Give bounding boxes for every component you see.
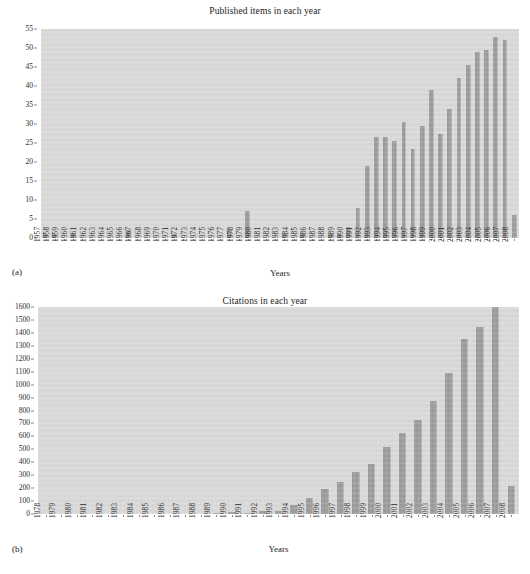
- y-axis-tick-label: 1600: [15, 303, 30, 311]
- bar: [430, 401, 437, 514]
- x-axis-tick-label: 1976: [209, 227, 216, 242]
- x-axis-tick: 1971: [170, 239, 179, 269]
- x-axis-tick-label: 1992: [356, 227, 363, 242]
- bar-slot: [162, 307, 178, 514]
- x-axis-tick: 1998: [418, 239, 427, 269]
- x-axis-tick: 1979: [243, 239, 252, 269]
- x-axis-tick: 2008: [510, 239, 519, 269]
- x-axis-tick-mark: [92, 515, 93, 517]
- bar-slot: [85, 307, 101, 514]
- y-axis-tick-label: 1200: [15, 355, 30, 363]
- chart-a-plot-area: [41, 29, 519, 238]
- bar-slot: [206, 29, 215, 238]
- x-axis-tick-label: 1965: [108, 227, 115, 242]
- x-axis-tick-mark: [278, 515, 279, 517]
- bar: [306, 498, 313, 514]
- bar-slot: [472, 307, 488, 514]
- bar-slot: [255, 307, 271, 514]
- x-axis-tick-mark: [310, 515, 311, 517]
- bar: [445, 373, 452, 514]
- y-axis-tick-mark: [34, 219, 37, 220]
- x-axis-tick-label: 1971: [163, 227, 170, 242]
- x-axis-tick: 2007: [500, 239, 509, 269]
- x-axis-tick-label: 1988: [320, 227, 327, 242]
- chart-b-x-axis-label: Years: [38, 544, 519, 554]
- x-axis-tick: 2000: [436, 239, 445, 269]
- y-axis-tick-mark: [31, 475, 34, 476]
- bar-slot: [69, 307, 85, 514]
- x-axis-tick-label: 1993: [268, 503, 275, 518]
- bar-slot: [142, 29, 151, 238]
- bar: [411, 149, 416, 238]
- bar-slot: [454, 29, 463, 238]
- chart-a-x-axis: 1957195819591960196119621963196419651966…: [41, 239, 519, 269]
- x-axis-tick: 2004: [441, 515, 457, 545]
- x-axis-tick-label: 1979: [50, 503, 57, 518]
- bar-slot: [160, 29, 169, 238]
- x-axis-tick: 1999: [427, 239, 436, 269]
- x-axis-tick: 1980: [69, 515, 85, 545]
- x-axis-tick: 2007: [488, 515, 504, 545]
- x-axis-tick-mark: [108, 515, 109, 517]
- x-axis-tick-mark: [496, 515, 497, 517]
- y-axis-tick-label: 1500: [15, 316, 30, 324]
- x-axis-tick-mark: [201, 515, 202, 517]
- x-axis-tick: 1991: [240, 515, 256, 545]
- x-axis-tick: 1969: [151, 239, 160, 269]
- bar: [402, 122, 407, 238]
- y-axis-tick-mark: [31, 436, 34, 437]
- x-axis-tick-label: 2004: [467, 227, 474, 242]
- x-axis-tick-label: 1980: [246, 227, 253, 242]
- y-axis-tick-mark: [31, 501, 34, 502]
- x-axis-tick-label: 2001: [392, 503, 399, 518]
- bar-slot: [131, 307, 147, 514]
- y-axis-tick-label: 400: [19, 459, 30, 467]
- x-axis-tick-label: 1998: [345, 503, 352, 518]
- x-axis-tick: 1985: [147, 515, 163, 545]
- x-axis-tick-label: 1959: [53, 227, 60, 242]
- bar-slot: [188, 29, 197, 238]
- bar-slot: [124, 29, 133, 238]
- y-axis-tick-mark: [31, 462, 34, 463]
- bar-slot: [115, 29, 124, 238]
- x-axis-tick-mark: [263, 515, 264, 517]
- x-axis-tick: 1999: [364, 515, 380, 545]
- bar: [461, 339, 468, 514]
- y-axis-tick-mark: [31, 410, 34, 411]
- bar: [337, 482, 344, 514]
- y-axis-tick-mark: [34, 124, 37, 125]
- x-axis-tick-mark: [46, 515, 47, 517]
- x-axis-tick: 2002: [410, 515, 426, 545]
- panel-a: Published items in each year 05101520253…: [0, 0, 530, 290]
- bar: [414, 420, 421, 514]
- x-axis-tick-label: 2008: [503, 227, 510, 242]
- chart-a-x-axis-label: Years: [41, 268, 519, 278]
- y-axis-tick-mark: [31, 319, 34, 320]
- x-axis-tick: 1968: [142, 239, 151, 269]
- x-axis-tick: 2003: [426, 515, 442, 545]
- bar-slot: [364, 307, 380, 514]
- x-axis-tick: 1990: [224, 515, 240, 545]
- chart-a-bars: [41, 29, 519, 238]
- x-axis-tick-label: 1987: [310, 227, 317, 242]
- x-axis-tick-label: 1995: [384, 227, 391, 242]
- x-axis-tick-label: 1992: [252, 503, 259, 518]
- x-axis-tick: 1988: [326, 239, 335, 269]
- x-axis-tick-label: 1988: [190, 503, 197, 518]
- x-axis-tick-label: 1981: [255, 227, 262, 242]
- y-axis-tick-label: 700: [19, 420, 30, 428]
- x-axis-tick-label: 1961: [72, 227, 79, 242]
- x-axis-tick-mark: [356, 515, 357, 517]
- y-axis-tick-label: 0: [29, 234, 33, 242]
- y-axis-tick-mark: [31, 332, 34, 333]
- x-axis-tick: 1959: [59, 239, 68, 269]
- chart-b-x-axis: 1978197919801981198219831984198519861987…: [38, 515, 519, 545]
- y-axis-tick-label: 500: [19, 446, 30, 454]
- bar: [374, 137, 379, 238]
- x-axis-tick: 1982: [100, 515, 116, 545]
- bar-slot: [410, 307, 426, 514]
- x-axis-tick-label: 1990: [338, 227, 345, 242]
- x-axis-tick-label: 1999: [421, 227, 428, 242]
- bar-slot: [436, 29, 445, 238]
- x-axis-tick: 1983: [116, 515, 132, 545]
